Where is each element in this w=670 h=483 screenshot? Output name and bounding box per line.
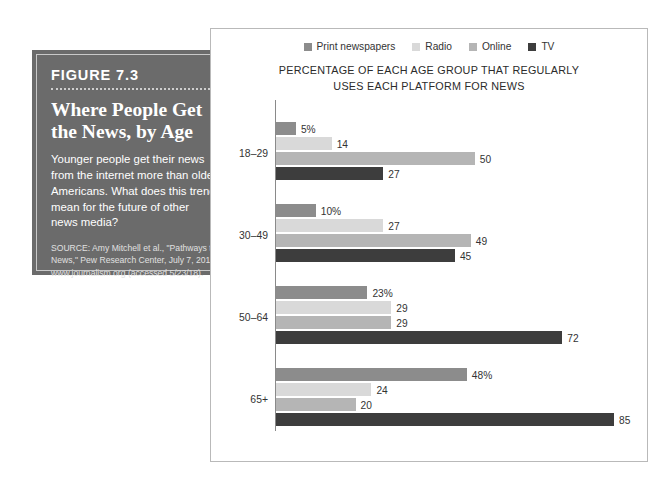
bar-row: 27	[275, 167, 621, 180]
bar-row: 5%	[275, 122, 621, 135]
legend-item-tv[interactable]: TV	[528, 41, 554, 52]
legend-swatch-icon	[469, 43, 477, 51]
bar-radio[interactable]	[276, 301, 391, 314]
bar-print-newspapers[interactable]	[276, 368, 467, 381]
bar-value-label: 29	[396, 302, 407, 313]
legend-item-print-newspapers[interactable]: Print newspapers	[304, 41, 396, 52]
legend-item-online[interactable]: Online	[469, 41, 511, 52]
legend-label: TV	[541, 41, 554, 52]
bar-value-label: 27	[388, 168, 399, 179]
legend-label: Radio	[425, 41, 452, 52]
bar-group-30-49: 30–4910%274945	[275, 204, 621, 266]
figure-caption-box: FIGURE 7.3 Where People Get the News, by…	[32, 50, 237, 275]
legend-swatch-icon	[304, 43, 312, 51]
bar-group-65+: 65+48%242085	[275, 368, 621, 430]
dotted-divider	[51, 88, 218, 90]
bar-row: 45	[275, 249, 621, 262]
bar-value-label: 49	[476, 235, 487, 246]
bar-online[interactable]	[276, 234, 471, 247]
legend-item-radio[interactable]: Radio	[412, 41, 452, 52]
bar-value-label: 48%	[472, 369, 492, 380]
bar-value-label: 10%	[321, 205, 341, 216]
chart-title-line-2: USES EACH PLATFORM FOR NEWS	[211, 78, 647, 94]
bar-group-18-29: 18–295%145027	[275, 122, 621, 184]
bar-radio[interactable]	[276, 137, 332, 150]
bar-online[interactable]	[276, 316, 391, 329]
bar-online[interactable]	[276, 152, 475, 165]
legend-swatch-icon	[528, 43, 536, 51]
bar-row: 10%	[275, 204, 621, 217]
chart-title: PERCENTAGE OF EACH AGE GROUP THAT REGULA…	[211, 62, 647, 94]
bar-value-label: 27	[388, 220, 399, 231]
bar-value-label: 5%	[301, 123, 316, 134]
bar-value-label: 23%	[372, 287, 392, 298]
figure-number: FIGURE 7.3	[51, 67, 218, 83]
legend-label: Online	[482, 41, 511, 52]
bar-row: 29	[275, 301, 621, 314]
bar-tv[interactable]	[276, 249, 455, 262]
bar-row: 50	[275, 152, 621, 165]
bar-tv[interactable]	[276, 331, 562, 344]
bar-online[interactable]	[276, 398, 356, 411]
bar-value-label: 20	[361, 399, 372, 410]
figure-source: SOURCE: Amy Mitchell et al., "Pathways t…	[51, 242, 218, 279]
bar-value-label: 29	[396, 317, 407, 328]
bar-value-label: 72	[567, 332, 578, 343]
figure-description: Younger people get their news from the i…	[51, 152, 218, 231]
bar-print-newspapers[interactable]	[276, 122, 296, 135]
bar-row: 23%	[275, 286, 621, 299]
bar-row: 85	[275, 413, 621, 426]
bar-tv[interactable]	[276, 413, 614, 426]
bar-value-label: 14	[337, 138, 348, 149]
bar-group-50-64: 50–6423%292972	[275, 286, 621, 348]
bar-value-label: 50	[480, 153, 491, 164]
plot-area: 18–295%14502730–4910%27494550–6423%29297…	[275, 100, 621, 431]
figure-caption-inner: FIGURE 7.3 Where People Get the News, by…	[36, 54, 233, 271]
category-label: 50–64	[239, 312, 268, 323]
category-label: 30–49	[239, 230, 268, 241]
chart-legend: Print newspapersRadioOnlineTV	[211, 41, 647, 52]
bar-value-label: 24	[376, 384, 387, 395]
chart-title-line-1: PERCENTAGE OF EACH AGE GROUP THAT REGULA…	[211, 62, 647, 78]
bar-row: 49	[275, 234, 621, 247]
bar-row: 20	[275, 398, 621, 411]
bar-row: 72	[275, 331, 621, 344]
bar-print-newspapers[interactable]	[276, 204, 316, 217]
bar-row: 27	[275, 219, 621, 232]
category-label: 18–29	[239, 148, 268, 159]
bar-row: 14	[275, 137, 621, 150]
bar-value-label: 85	[619, 414, 630, 425]
bar-radio[interactable]	[276, 383, 371, 396]
bar-tv[interactable]	[276, 167, 383, 180]
chart-panel: Print newspapersRadioOnlineTV PERCENTAGE…	[210, 28, 648, 462]
category-label: 65+	[250, 394, 268, 405]
bar-radio[interactable]	[276, 219, 383, 232]
bar-print-newspapers[interactable]	[276, 286, 367, 299]
figure-title: Where People Get the News, by Age	[51, 99, 218, 143]
legend-swatch-icon	[412, 43, 420, 51]
bar-row: 29	[275, 316, 621, 329]
bar-row: 48%	[275, 368, 621, 381]
bar-row: 24	[275, 383, 621, 396]
bar-value-label: 45	[460, 250, 471, 261]
legend-label: Print newspapers	[317, 41, 396, 52]
